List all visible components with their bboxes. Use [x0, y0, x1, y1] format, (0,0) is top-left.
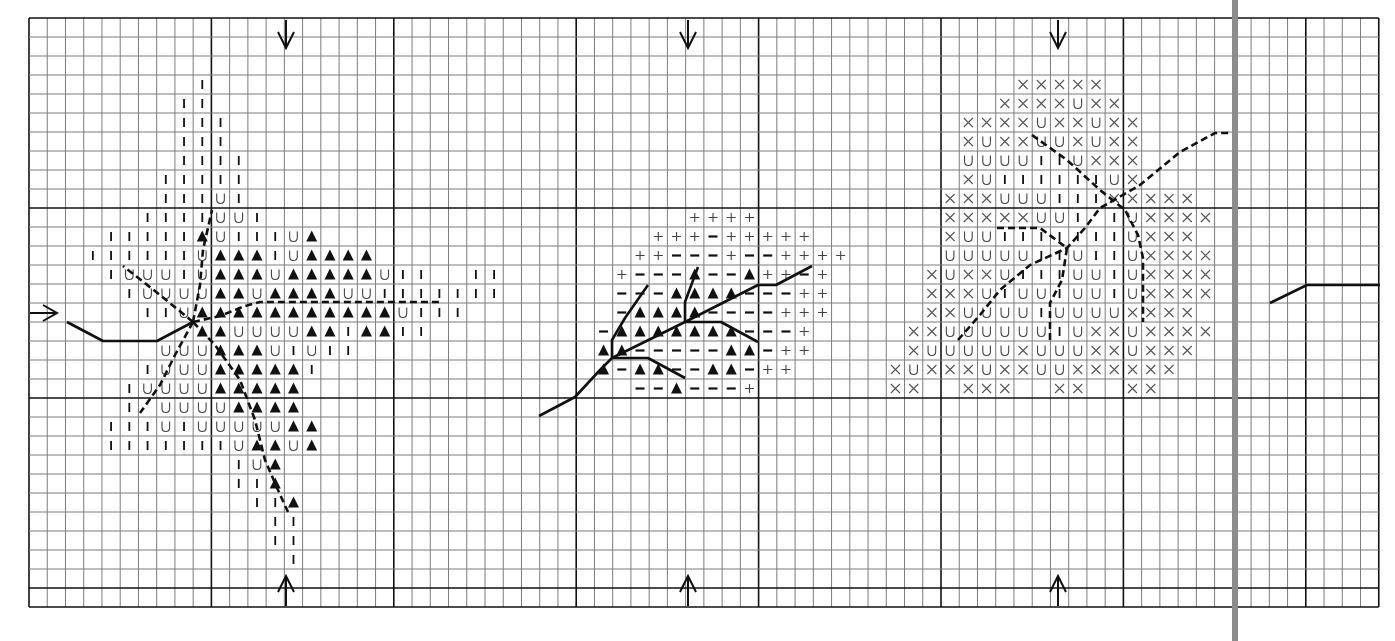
triangle-icon [270, 364, 281, 375]
cross-icon [946, 308, 955, 317]
u-shape-icon [1074, 289, 1082, 299]
triangle-icon [635, 307, 646, 318]
cross-icon [946, 232, 955, 241]
u-shape-icon [198, 346, 206, 356]
cross-icon [1000, 384, 1009, 393]
u-shape-icon [1001, 194, 1009, 204]
cross-icon [946, 289, 955, 298]
u-shape-icon [180, 346, 188, 356]
cross-icon [1146, 194, 1155, 203]
solid-stem-line [1270, 285, 1380, 303]
cross-icon [1073, 384, 1082, 393]
plus-icon [727, 251, 736, 260]
plus-icon [727, 232, 736, 241]
u-shape-icon [965, 308, 973, 318]
cross-icon [964, 194, 973, 203]
arrow-up-icon [278, 576, 294, 606]
cross-icon [964, 175, 973, 184]
cross-icon [1019, 80, 1028, 89]
cross-icon [1073, 118, 1082, 127]
triangle-icon [252, 364, 263, 375]
plus-icon [781, 232, 790, 241]
u-shape-icon [983, 308, 991, 318]
cross-icon [1000, 365, 1009, 374]
triangle-icon [361, 307, 372, 318]
triangle-icon [306, 326, 317, 337]
u-shape-icon [983, 289, 991, 299]
u-shape-icon [1038, 213, 1046, 223]
cross-icon [1000, 118, 1009, 127]
cross-icon [982, 118, 991, 127]
triangle-icon [288, 269, 299, 280]
u-shape-icon [271, 327, 279, 337]
triangle-icon [270, 288, 281, 299]
u-shape-icon [1129, 327, 1137, 337]
cross-icon [1019, 137, 1028, 146]
triangle-icon [288, 307, 299, 318]
triangle-icon [671, 288, 682, 299]
u-shape-icon [983, 251, 991, 261]
triangle-icon [252, 250, 263, 261]
cross-icon [1201, 213, 1210, 222]
u-shape-icon [363, 289, 371, 299]
triangle-icon [215, 326, 226, 337]
cross-icon [1055, 118, 1064, 127]
u-shape-icon [1001, 270, 1009, 280]
u-shape-icon [983, 327, 991, 337]
u-shape-icon [290, 232, 298, 242]
triangle-icon [689, 326, 700, 337]
triangle-icon [215, 364, 226, 375]
u-shape-icon [1074, 327, 1082, 337]
u-shape-icon [1129, 213, 1137, 223]
triangle-icon [233, 250, 244, 261]
triangle-icon [324, 288, 335, 299]
page-separator[interactable] [1232, 0, 1238, 641]
u-shape-icon [1092, 118, 1100, 128]
u-shape-icon [162, 403, 170, 413]
u-shape-icon [290, 251, 298, 261]
arrow-right-icon [30, 305, 57, 321]
cross-icon [1146, 289, 1155, 298]
u-shape-icon [144, 270, 152, 280]
cross-icon [1165, 270, 1174, 279]
cross-icon [1146, 346, 1155, 355]
cross-icon [1073, 137, 1082, 146]
triangle-icon [361, 269, 372, 280]
cross-icon [982, 194, 991, 203]
cross-icon [909, 346, 918, 355]
triangle-icon [726, 345, 737, 356]
triangle-icon [635, 364, 646, 375]
u-shape-icon [290, 441, 298, 451]
cross-icon [1128, 118, 1137, 127]
arrow-down-icon [1050, 20, 1066, 48]
arrow-down-icon [278, 20, 294, 48]
plus-icon [745, 213, 754, 222]
plus-icon [800, 232, 809, 241]
dashed-stem-line [1032, 135, 1143, 322]
cross-icon [1055, 99, 1064, 108]
cross-icon [1165, 213, 1174, 222]
triangle-icon [306, 250, 317, 261]
plus-icon [745, 232, 754, 241]
u-shape-icon [983, 232, 991, 242]
page-split-bar[interactable] [1232, 0, 1238, 641]
plus-icon [800, 308, 809, 317]
plus-icon [800, 346, 809, 355]
plus-icon [727, 213, 736, 222]
cross-icon [1183, 327, 1192, 336]
plus-icon [800, 251, 809, 260]
cross-icon [1146, 308, 1155, 317]
u-shape-icon [1074, 156, 1082, 166]
u-shape-icon [1074, 251, 1082, 261]
u-shape-icon [910, 365, 918, 375]
u-shape-icon [1038, 194, 1046, 204]
arrow-down-icon [680, 20, 696, 48]
triangle-icon [379, 307, 390, 318]
triangle-icon [598, 345, 609, 356]
plus-icon [781, 346, 790, 355]
cross-icon [891, 384, 900, 393]
triangle-icon [726, 364, 737, 375]
u-shape-icon [290, 327, 298, 337]
plus-icon [690, 213, 699, 222]
cross-icon [946, 194, 955, 203]
